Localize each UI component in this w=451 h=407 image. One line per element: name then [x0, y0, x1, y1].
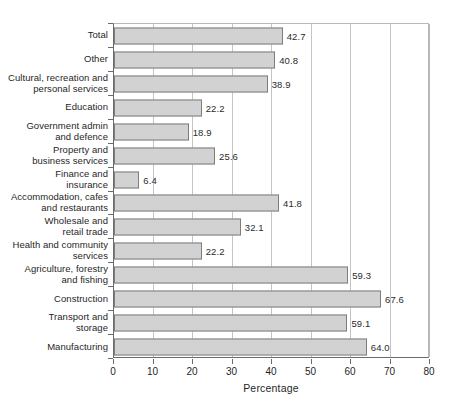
bar-band: 22.2	[114, 96, 428, 120]
bar[interactable]	[114, 171, 139, 188]
category-label-line: Accommodation, cafes	[0, 191, 108, 202]
bar[interactable]	[114, 147, 215, 164]
y-axis-tick	[108, 167, 113, 168]
x-axis-tick-label: 20	[186, 366, 197, 377]
bar-value-label: 67.6	[385, 294, 404, 305]
y-axis-tick	[108, 358, 113, 359]
bar-value-label: 6.4	[143, 174, 157, 185]
bar-value-label: 22.2	[206, 102, 225, 113]
category-label: Other	[0, 53, 108, 64]
y-axis-tick	[108, 143, 113, 144]
bar-value-label: 59.1	[351, 318, 370, 329]
category-label: Education	[0, 101, 108, 112]
category-label-line: Government admin	[0, 120, 108, 131]
category-label: Accommodation, cafesand restaurants	[0, 191, 108, 213]
x-axis-tick	[232, 359, 233, 364]
category-label-line: Cultural, recreation and	[0, 72, 108, 83]
x-axis-title: Percentage	[113, 382, 429, 394]
bar-band: 22.2	[114, 239, 428, 263]
bar-band: 38.9	[114, 72, 428, 96]
category-label-line: Finance and	[0, 168, 108, 179]
category-label-line: storage	[0, 322, 108, 333]
y-axis-tick	[108, 119, 113, 120]
bar-band: 42.7	[114, 24, 428, 48]
bar[interactable]	[114, 291, 381, 308]
category-label: Total	[0, 29, 108, 40]
category-label-line: Wholesale and	[0, 215, 108, 226]
bar-value-label: 42.7	[287, 30, 306, 41]
category-label: Transport andstorage	[0, 311, 108, 333]
bar[interactable]	[114, 315, 347, 332]
bar-value-label: 32.1	[245, 222, 264, 233]
bar[interactable]	[114, 219, 241, 236]
x-axis-tick	[311, 359, 312, 364]
category-label-line: and defence	[0, 131, 108, 142]
category-label-line: retail trade	[0, 226, 108, 237]
category-label-line: business services	[0, 155, 108, 166]
category-label-line: Property and	[0, 144, 108, 155]
x-axis-tick-label: 40	[265, 366, 276, 377]
y-axis-tick	[108, 238, 113, 239]
bar-band: 41.8	[114, 192, 428, 216]
bar[interactable]	[114, 267, 348, 284]
bar-value-label: 59.3	[352, 270, 371, 281]
category-label: Government adminand defence	[0, 120, 108, 142]
bar-band: 59.1	[114, 311, 428, 335]
category-label-line: and fishing	[0, 274, 108, 285]
y-axis-tick	[108, 262, 113, 263]
y-axis-tick	[108, 334, 113, 335]
bar[interactable]	[114, 27, 283, 44]
y-axis-tick	[108, 310, 113, 311]
plot-area: 42.740.838.922.218.925.66.441.832.122.25…	[113, 23, 429, 358]
category-label-line: Education	[0, 101, 108, 112]
bar-value-label: 64.0	[371, 342, 390, 353]
category-label-line: Other	[0, 53, 108, 64]
y-axis-tick	[108, 214, 113, 215]
bar-band: 18.9	[114, 120, 428, 144]
category-label-line: services	[0, 250, 108, 261]
category-label: Property andbusiness services	[0, 144, 108, 166]
gridline-80	[429, 24, 430, 357]
category-label: Construction	[0, 293, 108, 304]
category-label-line: Total	[0, 29, 108, 40]
bar[interactable]	[114, 75, 268, 92]
category-label: Agriculture, forestryand fishing	[0, 263, 108, 285]
x-axis-tick	[271, 359, 272, 364]
category-label: Health and communityservices	[0, 239, 108, 261]
y-axis-tick	[108, 286, 113, 287]
x-axis-tick	[113, 359, 114, 364]
category-label-line: Construction	[0, 293, 108, 304]
bar-band: 64.0	[114, 335, 428, 359]
category-label-line: Transport and	[0, 311, 108, 322]
bar[interactable]	[114, 243, 202, 260]
x-axis-tick	[153, 359, 154, 364]
bar[interactable]	[114, 123, 189, 140]
bar[interactable]	[114, 51, 275, 68]
y-axis-tick	[108, 71, 113, 72]
x-axis-tick	[350, 359, 351, 364]
bar-value-label: 40.8	[279, 54, 298, 65]
bar-value-label: 41.8	[283, 198, 302, 209]
y-axis-tick	[108, 47, 113, 48]
bar-value-label: 18.9	[193, 126, 212, 137]
bar[interactable]	[114, 99, 202, 116]
bar-band: 6.4	[114, 168, 428, 192]
x-axis-tick	[390, 359, 391, 364]
category-label-line: Manufacturing	[0, 341, 108, 352]
bar-band: 59.3	[114, 263, 428, 287]
x-axis-tick-label: 10	[147, 366, 158, 377]
x-axis-tick	[192, 359, 193, 364]
bar[interactable]	[114, 195, 279, 212]
x-axis-tick-label: 0	[110, 366, 116, 377]
x-axis-tick-label: 80	[423, 366, 434, 377]
x-axis-tick-label: 70	[384, 366, 395, 377]
x-axis-tick-label: 50	[305, 366, 316, 377]
x-axis-tick-label: 60	[344, 366, 355, 377]
bar-value-label: 25.6	[219, 150, 238, 161]
y-axis-tick	[108, 95, 113, 96]
category-label-line: and restaurants	[0, 202, 108, 213]
category-label: Cultural, recreation andpersonal service…	[0, 72, 108, 94]
category-label-line: Health and community	[0, 239, 108, 250]
bar[interactable]	[114, 339, 367, 356]
category-label-line: Agriculture, forestry	[0, 263, 108, 274]
